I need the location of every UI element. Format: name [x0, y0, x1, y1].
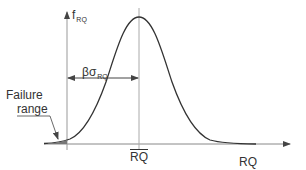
density-curve [44, 17, 256, 144]
x-axis-label: RQ [239, 156, 257, 169]
failure-range-label-line2: range [17, 103, 48, 116]
mean-label: RQ [130, 151, 148, 164]
beta-sigma-label: βσRQ [82, 66, 108, 80]
density-diagram [0, 0, 306, 170]
y-axis-label: fRQ [72, 9, 87, 23]
failure-range-label-line1: Failure [6, 89, 43, 102]
failure-leader-line [17, 116, 58, 139]
